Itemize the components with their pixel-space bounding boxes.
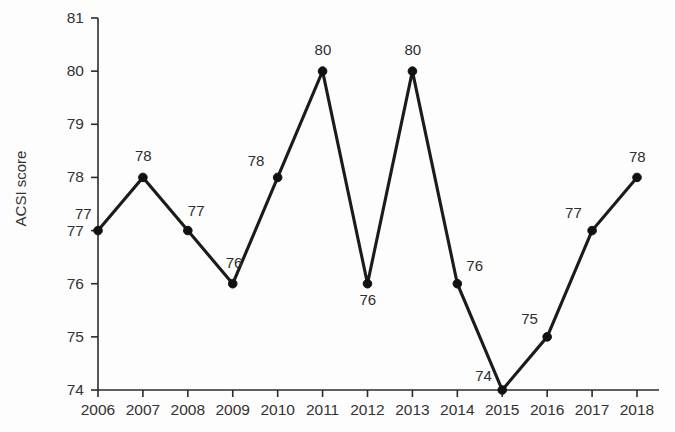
data-point-value-label: 76 — [226, 255, 243, 270]
markers-group — [94, 67, 642, 394]
data-point-marker — [408, 67, 417, 76]
x-axis-tick-label: 2016 — [522, 402, 572, 418]
x-axis-tick-label: 2014 — [432, 402, 482, 418]
x-axis-tick-label: 2012 — [343, 402, 393, 418]
data-point-value-label: 77 — [188, 203, 205, 218]
data-point-value-label: 77 — [565, 205, 582, 220]
chart-container: ACSI score 7475767778798081 200620072008… — [0, 0, 675, 432]
x-axis-tick-label: 2011 — [298, 402, 348, 418]
data-point-value-label: 77 — [75, 206, 92, 221]
data-point-marker — [228, 279, 237, 288]
data-point-marker — [94, 226, 103, 235]
data-point-value-label: 78 — [248, 153, 265, 168]
data-point-marker — [543, 333, 552, 342]
y-axis-title: ACSI score — [12, 139, 29, 239]
data-point-value-label: 78 — [135, 148, 152, 163]
series-group — [98, 71, 637, 390]
data-point-value-label: 74 — [475, 368, 492, 383]
y-axis-tick-label: 75 — [46, 329, 84, 345]
x-axis-tick-label: 2018 — [612, 402, 662, 418]
data-point-value-label: 80 — [404, 42, 421, 57]
x-axis-tick-label: 2015 — [477, 402, 527, 418]
data-point-marker — [453, 279, 462, 288]
y-axis-tick-label: 79 — [46, 116, 84, 132]
x-axis-tick-label: 2013 — [387, 402, 437, 418]
x-axis-tick-label: 2017 — [567, 402, 617, 418]
data-point-marker — [273, 173, 282, 182]
x-axis-tick-label: 2010 — [253, 402, 303, 418]
data-point-marker — [588, 226, 597, 235]
y-axis-tick-label: 78 — [46, 169, 84, 185]
y-axis-tick-label: 81 — [46, 10, 84, 26]
data-point-value-label: 76 — [360, 292, 377, 307]
data-point-value-label: 80 — [315, 42, 332, 57]
data-point-value-label: 75 — [521, 311, 538, 326]
data-point-marker — [318, 67, 327, 76]
data-point-value-label: 76 — [466, 258, 483, 273]
data-point-marker — [498, 386, 507, 395]
data-point-marker — [139, 173, 148, 182]
data-point-marker — [184, 226, 193, 235]
data-point-marker — [363, 279, 372, 288]
y-axis-tick-label: 77 — [46, 223, 84, 239]
y-axis-tick-label: 74 — [46, 382, 84, 398]
y-axis-tick-label: 80 — [46, 63, 84, 79]
data-point-value-label: 78 — [629, 149, 646, 164]
x-axis-tick-label: 2006 — [73, 402, 123, 418]
x-axis-tick-label: 2007 — [118, 402, 168, 418]
y-axis-tick-label: 76 — [46, 276, 84, 292]
x-axis-tick-label: 2008 — [163, 402, 213, 418]
data-point-marker — [633, 173, 642, 182]
x-axis-tick-label: 2009 — [208, 402, 258, 418]
series-line-acsi — [98, 71, 637, 390]
